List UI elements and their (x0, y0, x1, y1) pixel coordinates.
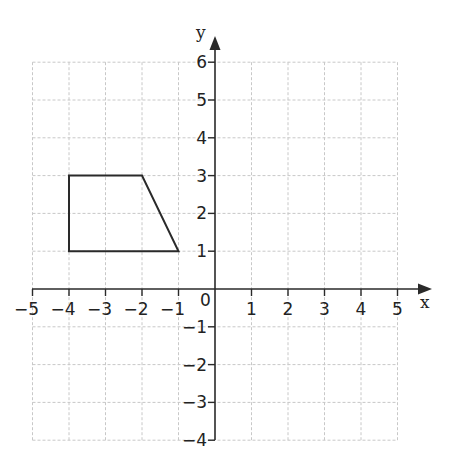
x-tick-label: −5 (14, 299, 39, 319)
y-tick-label: 2 (196, 203, 207, 223)
y-axis-arrow-icon (210, 36, 221, 50)
y-tick-label: 5 (196, 90, 207, 110)
x-tick-label: 1 (246, 299, 257, 319)
y-tick-label: 4 (196, 128, 207, 148)
coordinate-grid: x y −5−4−3−2−112345654321−1−2−3−4 0 (0, 0, 459, 473)
origin-label: 0 (200, 290, 211, 310)
y-tick-label: 6 (196, 52, 207, 72)
y-tick-label: −1 (182, 317, 207, 337)
y-axis-label: y (195, 22, 206, 42)
x-tick-label: 2 (283, 299, 294, 319)
y-tick-label: 3 (196, 166, 207, 186)
y-tick-label: −3 (182, 392, 207, 412)
x-tick-label: 5 (392, 299, 403, 319)
x-tick-label: 4 (356, 299, 367, 319)
x-tick-label: −3 (87, 299, 112, 319)
y-tick-label: 1 (196, 241, 207, 261)
x-tick-label: 3 (319, 299, 330, 319)
x-tick-label: −4 (50, 299, 75, 319)
y-tick-label: −2 (182, 355, 207, 375)
x-axis-label: x (420, 292, 430, 312)
y-tick-label: −4 (182, 430, 207, 450)
y-axis: y (195, 22, 221, 440)
x-tick-label: −2 (123, 299, 148, 319)
